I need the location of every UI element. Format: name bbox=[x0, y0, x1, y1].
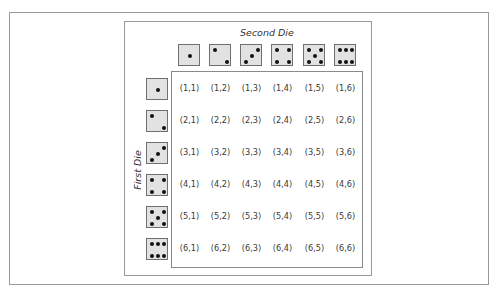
outcome-cell: (3,4) bbox=[267, 147, 298, 157]
outcome-cell: (4,2) bbox=[205, 179, 236, 189]
pip bbox=[256, 48, 260, 52]
die-face-3-icon bbox=[240, 44, 262, 66]
outcome-cell: (2,3) bbox=[236, 115, 267, 125]
pip bbox=[150, 242, 154, 246]
outcome-cell: (5,5) bbox=[299, 211, 330, 221]
pip bbox=[244, 60, 248, 64]
pip bbox=[307, 48, 311, 52]
outcome-cell: (2,5) bbox=[299, 115, 330, 125]
outcome-cell: (6,1) bbox=[174, 243, 205, 253]
die-face-1-icon bbox=[146, 78, 168, 100]
die-face-5-icon bbox=[146, 206, 168, 228]
pip bbox=[287, 60, 291, 64]
die-face-2-icon bbox=[146, 110, 168, 132]
outcome-cell: (5,3) bbox=[236, 211, 267, 221]
pip bbox=[162, 126, 166, 130]
pip bbox=[250, 54, 254, 58]
pip bbox=[225, 60, 229, 64]
pip bbox=[350, 48, 354, 52]
pip bbox=[156, 152, 160, 156]
pip bbox=[162, 178, 166, 182]
outcome-cell: (2,4) bbox=[267, 115, 298, 125]
pip bbox=[150, 158, 154, 162]
first-die-axis-label: First Die bbox=[132, 150, 143, 190]
outcome-cell: (6,5) bbox=[299, 243, 330, 253]
outcome-cell: (4,5) bbox=[299, 179, 330, 189]
pip bbox=[156, 242, 160, 246]
die-face-1-icon bbox=[178, 44, 200, 66]
pip bbox=[162, 210, 166, 214]
outcome-grid bbox=[171, 71, 363, 268]
die-face-6-icon bbox=[146, 238, 168, 260]
outcome-cell: (2,2) bbox=[205, 115, 236, 125]
outcome-cell: (3,1) bbox=[174, 147, 205, 157]
outcome-cell: (5,4) bbox=[267, 211, 298, 221]
outcome-cell: (4,6) bbox=[330, 179, 361, 189]
outcome-cell: (3,3) bbox=[236, 147, 267, 157]
pip bbox=[338, 60, 342, 64]
outcome-cell: (1,2) bbox=[205, 83, 236, 93]
pip bbox=[150, 114, 154, 118]
outcome-cell: (5,1) bbox=[174, 211, 205, 221]
pip bbox=[275, 48, 279, 52]
die-face-4-icon bbox=[146, 174, 168, 196]
pip bbox=[150, 222, 154, 226]
pip bbox=[287, 48, 291, 52]
pip bbox=[162, 146, 166, 150]
die-face-3-icon bbox=[146, 142, 168, 164]
die-face-2-icon bbox=[209, 44, 231, 66]
pip bbox=[150, 210, 154, 214]
pip bbox=[350, 60, 354, 64]
outcome-cell: (1,4) bbox=[267, 83, 298, 93]
pip bbox=[150, 190, 154, 194]
pip bbox=[156, 254, 160, 258]
outcome-cell: (1,1) bbox=[174, 83, 205, 93]
outcome-cell: (1,3) bbox=[236, 83, 267, 93]
outcome-cell: (4,3) bbox=[236, 179, 267, 189]
pip bbox=[313, 54, 317, 58]
pip bbox=[162, 190, 166, 194]
die-face-5-icon bbox=[303, 44, 325, 66]
pip bbox=[275, 60, 279, 64]
outcome-cell: (4,1) bbox=[174, 179, 205, 189]
outcome-cell: (6,2) bbox=[205, 243, 236, 253]
pip bbox=[162, 242, 166, 246]
pip bbox=[150, 178, 154, 182]
pip bbox=[344, 48, 348, 52]
outcome-cell: (5,2) bbox=[205, 211, 236, 221]
outcome-cell: (3,5) bbox=[299, 147, 330, 157]
pip bbox=[156, 88, 160, 92]
pip bbox=[307, 60, 311, 64]
outcome-cell: (3,6) bbox=[330, 147, 361, 157]
pip bbox=[188, 54, 192, 58]
pip bbox=[162, 254, 166, 258]
outcome-cell: (6,6) bbox=[330, 243, 361, 253]
die-face-4-icon bbox=[271, 44, 293, 66]
pip bbox=[162, 222, 166, 226]
pip bbox=[338, 48, 342, 52]
pip bbox=[319, 60, 323, 64]
pip bbox=[344, 60, 348, 64]
outcome-cell: (6,3) bbox=[236, 243, 267, 253]
outcome-cell: (1,6) bbox=[330, 83, 361, 93]
pip bbox=[319, 48, 323, 52]
outcome-cell: (3,2) bbox=[205, 147, 236, 157]
outcome-cell: (2,6) bbox=[330, 115, 361, 125]
pip bbox=[150, 254, 154, 258]
second-die-axis-label: Second Die bbox=[240, 27, 294, 38]
outcome-cell: (4,4) bbox=[267, 179, 298, 189]
outcome-cell: (2,1) bbox=[174, 115, 205, 125]
outcome-cell: (6,4) bbox=[267, 243, 298, 253]
outcome-cell: (5,6) bbox=[330, 211, 361, 221]
outcome-cell: (1,5) bbox=[299, 83, 330, 93]
pip bbox=[213, 48, 217, 52]
pip bbox=[156, 216, 160, 220]
die-face-6-icon bbox=[334, 44, 356, 66]
